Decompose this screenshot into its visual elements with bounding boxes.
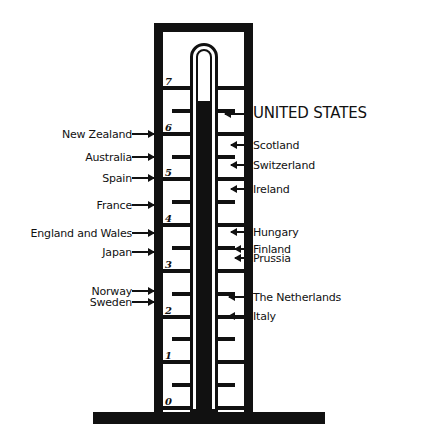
minor-tick-right xyxy=(218,337,235,341)
tick-label-1: 1 xyxy=(165,351,172,361)
major-tick-left xyxy=(154,132,190,136)
arrow-left-icon xyxy=(231,160,253,170)
major-tick-right xyxy=(218,132,253,136)
tick-label-6: 6 xyxy=(165,123,172,133)
minor-tick-right xyxy=(218,383,235,387)
callout-hungary: Hungary xyxy=(231,226,299,238)
frame-right-edge xyxy=(244,23,253,412)
thermometer-capillary xyxy=(196,49,212,412)
arrow-left-icon xyxy=(225,109,253,119)
callout-switzerland: Switzerland xyxy=(231,159,315,171)
arrow-right-icon xyxy=(132,129,154,139)
callout-ireland: Ireland xyxy=(231,183,290,195)
arrow-right-icon xyxy=(132,200,154,210)
callout-spain: Spain xyxy=(102,172,154,184)
major-tick-left xyxy=(154,360,190,364)
arrow-right-icon xyxy=(132,247,154,257)
minor-tick-right xyxy=(218,246,235,250)
thermometer-base xyxy=(93,412,325,424)
callout-australia: Australia xyxy=(85,151,154,163)
callout-label-scotland: Scotland xyxy=(253,140,299,151)
callout-label-japan: Japan xyxy=(102,247,132,258)
major-tick-left xyxy=(154,406,190,410)
callout-england-and-wales: England and Wales xyxy=(31,227,154,239)
arrow-left-icon xyxy=(229,292,253,302)
callout-label-sweden: Sweden xyxy=(90,297,132,308)
arrow-left-icon xyxy=(235,253,253,263)
callout-label-spain: Spain xyxy=(102,173,132,184)
frame-top-edge xyxy=(154,23,253,32)
arrow-left-icon xyxy=(231,140,253,150)
arrow-right-icon xyxy=(132,173,154,183)
arrow-left-icon xyxy=(231,184,253,194)
callout-label-australia: Australia xyxy=(85,152,132,163)
tick-label-0: 0 xyxy=(165,397,172,407)
major-tick-right xyxy=(218,86,253,90)
tick-label-5: 5 xyxy=(165,168,172,178)
callout-prussia: Prussia xyxy=(235,252,291,264)
tick-label-2: 2 xyxy=(165,306,172,316)
tick-label-4: 4 xyxy=(165,214,172,224)
arrow-left-icon xyxy=(229,311,253,321)
tick-label-7: 7 xyxy=(165,77,172,87)
major-tick-left xyxy=(154,177,190,181)
arrow-right-icon xyxy=(132,286,154,296)
tick-label-3: 3 xyxy=(165,260,172,270)
thermometer-chart: 76543210 New ZealandAustraliaSpainFrance… xyxy=(0,0,424,447)
major-tick-right xyxy=(218,360,253,364)
callout-label-the-netherlands: The Netherlands xyxy=(253,292,341,303)
callout-scotland: Scotland xyxy=(231,139,299,151)
callout-label-switzerland: Switzerland xyxy=(253,160,315,171)
callout-label-england-and-wales: England and Wales xyxy=(31,228,132,239)
minor-tick-left xyxy=(172,246,190,250)
callout-label-ireland: Ireland xyxy=(253,184,290,195)
major-tick-left xyxy=(154,86,190,90)
minor-tick-left xyxy=(172,337,190,341)
minor-tick-left xyxy=(172,383,190,387)
callout-label-norway: Norway xyxy=(91,286,132,297)
arrow-left-icon xyxy=(231,227,253,237)
callout-italy: Italy xyxy=(229,310,276,322)
callout-label-hungary: Hungary xyxy=(253,227,299,238)
callout-united-states: UNITED STATES xyxy=(225,106,367,121)
callout-label-united-states: UNITED STATES xyxy=(253,106,367,121)
callout-japan: Japan xyxy=(102,246,154,258)
minor-tick-right xyxy=(218,155,235,159)
frame-left-edge xyxy=(154,23,163,412)
arrow-right-icon xyxy=(132,228,154,238)
major-tick-left xyxy=(154,315,190,319)
arrow-right-icon xyxy=(132,152,154,162)
minor-tick-left xyxy=(172,109,190,113)
callout-new-zealand: New Zealand xyxy=(62,128,154,140)
callout-label-france: France xyxy=(97,200,132,211)
callout-france: France xyxy=(97,199,154,211)
callout-the-netherlands: The Netherlands xyxy=(229,291,341,303)
callout-norway: Norway xyxy=(91,285,154,297)
major-tick-right xyxy=(218,269,253,273)
callout-label-new-zealand: New Zealand xyxy=(62,129,132,140)
minor-tick-right xyxy=(218,200,235,204)
arrow-right-icon xyxy=(132,297,154,307)
mercury-column xyxy=(198,101,210,410)
major-tick-right xyxy=(218,177,253,181)
callout-label-prussia: Prussia xyxy=(253,253,291,264)
minor-tick-left xyxy=(172,200,190,204)
minor-tick-left xyxy=(172,292,190,296)
major-tick-right xyxy=(218,406,253,410)
major-tick-left xyxy=(154,223,190,227)
callout-sweden: Sweden xyxy=(90,296,154,308)
minor-tick-left xyxy=(172,155,190,159)
major-tick-left xyxy=(154,269,190,273)
callout-label-italy: Italy xyxy=(253,311,276,322)
